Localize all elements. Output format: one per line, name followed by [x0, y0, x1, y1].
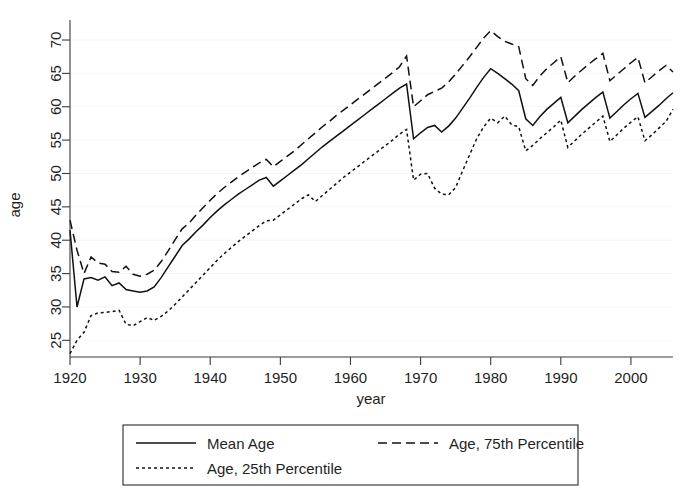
- y-tick-label: 45: [47, 199, 64, 216]
- y-tick-label: 60: [47, 98, 64, 115]
- y-tick-label: 30: [47, 299, 64, 316]
- x-tick-label: 1940: [194, 369, 227, 386]
- series-line-mean-age: [70, 69, 673, 307]
- x-tick-label: 1920: [53, 369, 86, 386]
- y-tick-label: 40: [47, 232, 64, 249]
- y-tick-label: 70: [47, 32, 64, 49]
- legend-label-mean-age: Mean Age: [207, 435, 275, 452]
- x-tick-label: 1970: [404, 369, 437, 386]
- legend-label-age-75th-percentile: Age, 75th Percentile: [449, 435, 584, 452]
- gridlines: [71, 40, 673, 340]
- y-tick-label: 25: [47, 332, 64, 349]
- x-tick-label: 1930: [123, 369, 156, 386]
- x-axis-ticks: 192019301940195019601970198019902000: [53, 357, 647, 386]
- x-tick-label: 1950: [264, 369, 297, 386]
- y-axis-title: age: [6, 192, 23, 217]
- y-tick-label: 65: [47, 65, 64, 82]
- y-axis-ticks: 25303540455055606570: [47, 32, 70, 349]
- x-axis-title: year: [356, 390, 385, 407]
- y-tick-label: 35: [47, 265, 64, 282]
- age-trend-line-chart: 25303540455055606570 1920193019401950196…: [0, 0, 685, 497]
- y-tick-label: 50: [47, 165, 64, 182]
- x-tick-label: 1980: [474, 369, 507, 386]
- chart-figure: 25303540455055606570 1920193019401950196…: [0, 0, 685, 497]
- series-line-age-75th-percentile: [70, 31, 673, 277]
- series-line-age-25th-percentile: [70, 109, 673, 353]
- legend: Mean Age Age, 75th Percentile Age, 25th …: [123, 425, 584, 485]
- legend-box: [123, 425, 578, 485]
- legend-label-age-25th-percentile: Age, 25th Percentile: [207, 460, 342, 477]
- x-tick-label: 1960: [334, 369, 367, 386]
- y-tick-label: 55: [47, 132, 64, 149]
- x-tick-label: 1990: [544, 369, 577, 386]
- x-tick-label: 2000: [614, 369, 647, 386]
